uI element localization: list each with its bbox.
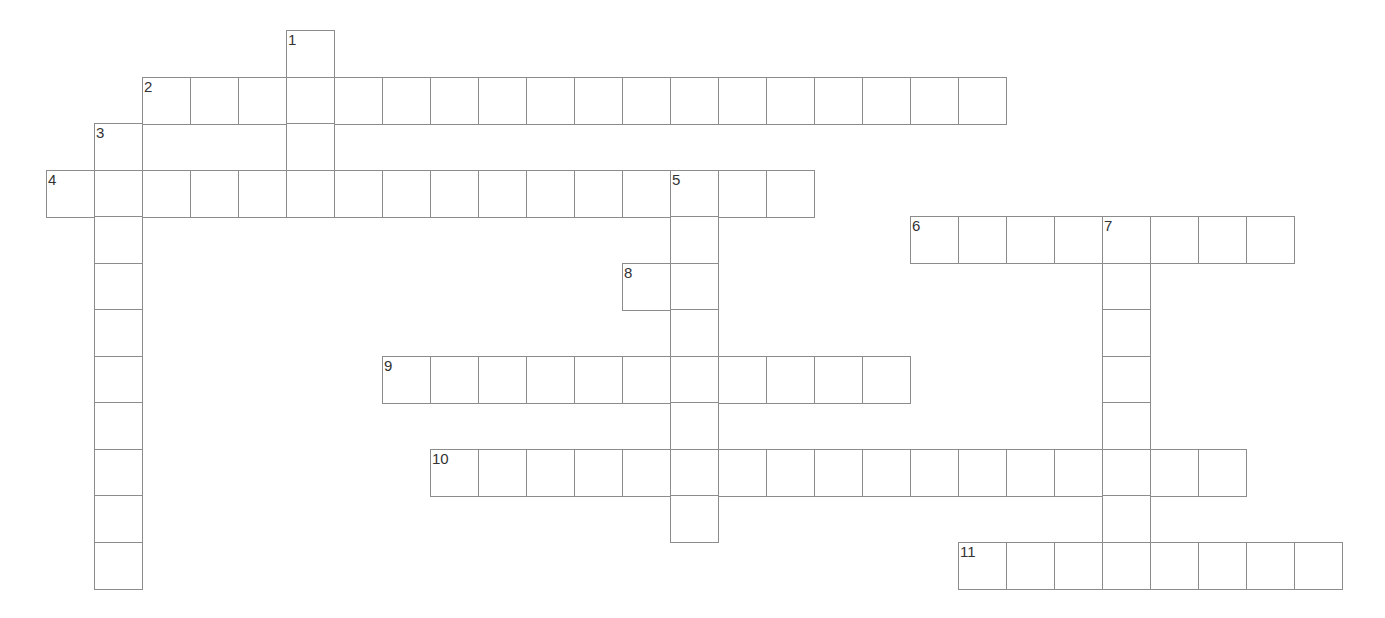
crossword-cell[interactable]: 9 [382, 356, 431, 404]
crossword-cell[interactable] [670, 77, 719, 125]
cell-letter-input[interactable] [575, 78, 626, 126]
crossword-cell[interactable] [958, 449, 1007, 497]
crossword-cell[interactable]: 2 [142, 77, 191, 125]
cell-letter-input[interactable] [671, 78, 722, 126]
cell-letter-input[interactable] [767, 450, 818, 498]
crossword-cell[interactable] [382, 170, 431, 218]
crossword-cell[interactable] [526, 449, 575, 497]
crossword-cell[interactable]: 4 [46, 170, 95, 218]
cell-letter-input[interactable] [1247, 217, 1298, 265]
cell-letter-input[interactable] [1007, 543, 1058, 591]
crossword-cell[interactable] [766, 77, 815, 125]
crossword-cell[interactable]: 6 [910, 216, 959, 264]
crossword-cell[interactable]: 5 [670, 170, 719, 218]
cell-letter-input[interactable] [479, 357, 530, 405]
crossword-cell[interactable] [766, 356, 815, 404]
crossword-cell[interactable] [1198, 449, 1247, 497]
crossword-cell[interactable] [1006, 542, 1055, 590]
cell-letter-input[interactable] [1103, 357, 1154, 405]
cell-letter-input[interactable] [671, 171, 722, 219]
cell-letter-input[interactable] [863, 78, 914, 126]
crossword-cell[interactable] [334, 170, 383, 218]
cell-letter-input[interactable] [95, 264, 146, 312]
crossword-cell[interactable] [1102, 495, 1151, 543]
cell-letter-input[interactable] [95, 357, 146, 405]
cell-letter-input[interactable] [95, 217, 146, 265]
crossword-cell[interactable] [670, 263, 719, 311]
cell-letter-input[interactable] [671, 357, 722, 405]
cell-letter-input[interactable] [431, 78, 482, 126]
crossword-cell[interactable] [1054, 449, 1103, 497]
crossword-cell[interactable] [94, 263, 143, 311]
cell-letter-input[interactable] [959, 450, 1010, 498]
cell-letter-input[interactable] [1055, 450, 1106, 498]
cell-letter-input[interactable] [767, 78, 818, 126]
cell-letter-input[interactable] [1103, 264, 1154, 312]
crossword-cell[interactable] [670, 216, 719, 264]
crossword-cell[interactable] [622, 356, 671, 404]
crossword-cell[interactable] [478, 356, 527, 404]
crossword-cell[interactable] [94, 170, 143, 218]
crossword-cell[interactable] [670, 402, 719, 450]
crossword-cell[interactable] [1006, 449, 1055, 497]
cell-letter-input[interactable] [1055, 217, 1106, 265]
crossword-cell[interactable] [94, 495, 143, 543]
crossword-cell[interactable] [766, 449, 815, 497]
cell-letter-input[interactable] [671, 450, 722, 498]
cell-letter-input[interactable] [383, 171, 434, 219]
crossword-cell[interactable] [478, 170, 527, 218]
crossword-cell[interactable]: 3 [94, 123, 143, 171]
crossword-cell[interactable] [334, 77, 383, 125]
crossword-cell[interactable] [862, 77, 911, 125]
cell-letter-input[interactable] [431, 450, 482, 498]
cell-letter-input[interactable] [671, 496, 722, 544]
crossword-cell[interactable] [814, 77, 863, 125]
cell-letter-input[interactable] [719, 357, 770, 405]
crossword-cell[interactable] [94, 216, 143, 264]
cell-letter-input[interactable] [623, 450, 674, 498]
crossword-cell[interactable] [910, 77, 959, 125]
cell-letter-input[interactable] [959, 78, 1010, 126]
crossword-cell[interactable] [238, 77, 287, 125]
crossword-cell[interactable]: 10 [430, 449, 479, 497]
cell-letter-input[interactable] [623, 171, 674, 219]
cell-letter-input[interactable] [911, 78, 962, 126]
crossword-cell[interactable] [286, 77, 335, 125]
crossword-cell[interactable] [862, 449, 911, 497]
crossword-cell[interactable] [718, 77, 767, 125]
cell-letter-input[interactable] [1295, 543, 1346, 591]
cell-letter-input[interactable] [143, 78, 194, 126]
crossword-cell[interactable] [526, 170, 575, 218]
cell-letter-input[interactable] [1103, 217, 1154, 265]
cell-letter-input[interactable] [767, 357, 818, 405]
crossword-cell[interactable] [94, 542, 143, 590]
cell-letter-input[interactable] [575, 171, 626, 219]
cell-letter-input[interactable] [719, 78, 770, 126]
cell-letter-input[interactable] [1007, 217, 1058, 265]
cell-letter-input[interactable] [95, 171, 146, 219]
crossword-cell[interactable] [238, 170, 287, 218]
cell-letter-input[interactable] [191, 171, 242, 219]
cell-letter-input[interactable] [575, 450, 626, 498]
crossword-cell[interactable] [910, 449, 959, 497]
crossword-cell[interactable] [670, 356, 719, 404]
crossword-cell[interactable] [574, 449, 623, 497]
cell-letter-input[interactable] [1055, 543, 1106, 591]
cell-letter-input[interactable] [815, 357, 866, 405]
cell-letter-input[interactable] [911, 450, 962, 498]
crossword-cell[interactable] [1150, 449, 1199, 497]
cell-letter-input[interactable] [239, 171, 290, 219]
cell-letter-input[interactable] [1247, 543, 1298, 591]
cell-letter-input[interactable] [911, 217, 962, 265]
cell-letter-input[interactable] [527, 450, 578, 498]
crossword-cell[interactable] [1054, 216, 1103, 264]
crossword-cell[interactable] [1198, 542, 1247, 590]
cell-letter-input[interactable] [1103, 543, 1154, 591]
cell-letter-input[interactable] [1151, 450, 1202, 498]
crossword-cell[interactable] [1054, 542, 1103, 590]
crossword-cell[interactable] [670, 449, 719, 497]
cell-letter-input[interactable] [527, 357, 578, 405]
cell-letter-input[interactable] [815, 450, 866, 498]
cell-letter-input[interactable] [1103, 403, 1154, 451]
cell-letter-input[interactable] [959, 543, 1010, 591]
